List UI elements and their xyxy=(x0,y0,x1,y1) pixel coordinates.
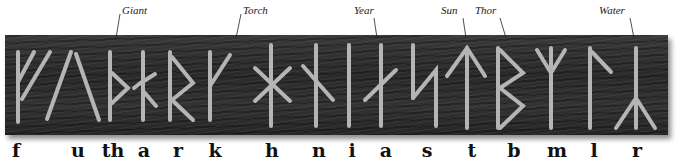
letter-t: t xyxy=(468,141,477,160)
rune-bjarkan-icon xyxy=(498,48,523,128)
rune-naud-icon xyxy=(303,45,333,126)
leader-year xyxy=(374,18,377,38)
letter-a: a xyxy=(138,141,150,160)
letter-n: n xyxy=(312,141,326,160)
letter-th: th xyxy=(102,141,125,160)
letter-i: i xyxy=(348,141,355,160)
letter-m: m xyxy=(547,141,567,160)
letter-b: b xyxy=(507,141,520,160)
letter-a-2: a xyxy=(380,141,392,160)
rune-carvings xyxy=(18,45,655,128)
letter-h: h xyxy=(265,141,279,160)
leader-torch xyxy=(236,14,241,38)
leader-sun xyxy=(463,18,466,38)
rune-thurisaz-icon xyxy=(110,52,128,120)
letter-l: l xyxy=(590,141,597,160)
letter-u: u xyxy=(71,141,85,160)
leader-giant xyxy=(116,14,120,38)
rune-tyr-icon xyxy=(447,48,485,128)
rune-madr-icon xyxy=(537,48,565,128)
rune-kaun-icon xyxy=(210,52,230,120)
rune-hagall-icon xyxy=(255,45,290,126)
rune-ar-icon xyxy=(365,45,396,126)
rune-ansuz-icon xyxy=(134,52,156,120)
rune-sol-icon xyxy=(413,45,436,126)
letter-r-2: r xyxy=(632,141,642,160)
letter-r: r xyxy=(173,141,183,160)
rune-raido-icon xyxy=(170,52,193,120)
rune-logr-icon xyxy=(590,48,611,128)
letter-k: k xyxy=(208,141,221,160)
leader-thor xyxy=(500,18,506,38)
letter-s: s xyxy=(422,141,433,160)
leader-lines xyxy=(116,14,634,38)
rune-yr-icon xyxy=(616,48,655,128)
rune-uruz-icon xyxy=(47,52,99,120)
leader-water xyxy=(630,18,634,38)
letter-f: f xyxy=(12,141,20,160)
rune-fehu-icon xyxy=(18,52,50,122)
